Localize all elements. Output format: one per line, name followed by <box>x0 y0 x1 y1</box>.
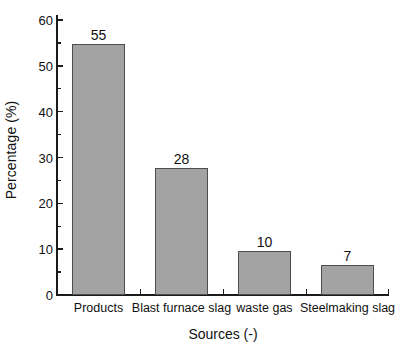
y-tick-major <box>57 157 63 158</box>
y-axis-spine <box>56 15 58 295</box>
bar-value-label: 55 <box>91 28 107 42</box>
y-tick-major <box>57 111 63 112</box>
y-axis-title-text: Percentage (%) <box>3 101 19 200</box>
y-tick-minor <box>57 180 61 181</box>
y-tick-label: 10 <box>39 243 53 256</box>
y-tick-minor <box>57 42 61 43</box>
bar[interactable]: 28Blast furnace slag <box>155 168 208 295</box>
bar-value-label: 28 <box>174 152 190 166</box>
y-tick-label: 50 <box>39 59 53 72</box>
y-tick-label: 20 <box>39 197 53 210</box>
bar-chart-figure: Percentage (%) 0102030405060 55Products2… <box>0 0 405 360</box>
x-tick <box>140 289 141 295</box>
y-tick-minor <box>57 271 61 272</box>
x-tick <box>57 289 58 295</box>
y-tick-major <box>57 19 63 20</box>
bar[interactable]: 10waste gas <box>238 251 291 295</box>
y-tick-major <box>57 65 63 66</box>
y-tick-label: 40 <box>39 105 53 118</box>
y-tick-minor <box>57 88 61 89</box>
y-tick-major <box>57 203 63 204</box>
y-axis-title: Percentage (%) <box>0 0 22 300</box>
x-category-label: waste gas <box>236 302 292 315</box>
bar-value-label: 10 <box>257 235 273 249</box>
y-tick-minor <box>57 226 61 227</box>
y-tick-label: 30 <box>39 151 53 164</box>
y-tick-minor <box>57 134 61 135</box>
x-category-label: Products <box>74 302 123 315</box>
x-tick <box>223 289 224 295</box>
bar[interactable]: 7Steelmaking slag <box>321 265 374 295</box>
y-tick-label: 60 <box>39 14 53 27</box>
y-tick-label: 0 <box>46 289 53 302</box>
x-category-label: Blast furnace slag <box>132 302 231 315</box>
plot-area: 0102030405060 55Products28Blast furnace … <box>57 20 389 295</box>
x-axis-title: Sources (-) <box>57 326 389 342</box>
x-tick <box>306 289 307 295</box>
x-tick <box>388 289 389 295</box>
x-category-label: Steelmaking slag <box>300 302 395 315</box>
y-tick-major <box>57 248 63 249</box>
bar-value-label: 7 <box>344 249 352 263</box>
bar[interactable]: 55Products <box>72 44 125 295</box>
